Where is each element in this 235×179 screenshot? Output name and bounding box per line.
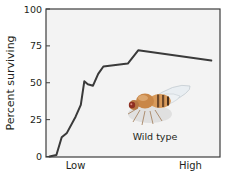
y-tick-label: 25 [30, 114, 42, 125]
x-category-label: Low [66, 160, 86, 171]
y-tick-label: 75 [30, 40, 42, 51]
y-axis-label: Percent surviving [4, 35, 17, 130]
survival-chart: 0255075100 LowHigh Percent surviving Wil… [0, 0, 235, 179]
x-axis-labels: LowHigh [66, 160, 202, 171]
y-tick-label: 100 [24, 4, 42, 15]
wild-type-label: Wild type [133, 131, 178, 142]
x-category-label: High [179, 160, 202, 171]
y-tick-label: 0 [36, 151, 42, 162]
y-tick-label: 50 [30, 77, 42, 88]
